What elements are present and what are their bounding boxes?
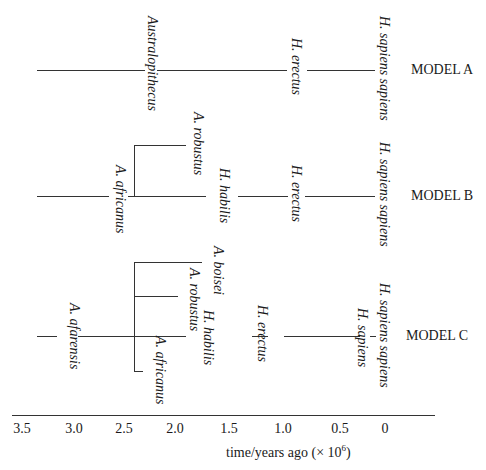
model-c-boisei-branch	[134, 262, 202, 263]
model-b-lineage-line	[37, 196, 109, 197]
species-label-h-erectus: H. erectus	[288, 38, 304, 95]
species-label-h-erectus: H. erectus	[254, 305, 270, 362]
model-b-branch-line	[134, 145, 135, 196]
tick-label: 3.5	[13, 421, 31, 437]
model-c-branch-line	[134, 262, 135, 371]
model-c-lineage-line	[284, 336, 360, 337]
species-label-h-sapiens-sapiens: H. sapiens sapiens	[376, 16, 392, 121]
species-label-h-sapiens: H. sapiens	[354, 308, 370, 367]
time-axis-line	[12, 415, 435, 416]
species-label-h-habilis: H. habilis	[216, 168, 232, 223]
model-b-lineage-line	[238, 196, 288, 197]
model-a-lineage-line	[307, 70, 375, 71]
species-label-a-boisei: A. boisei	[210, 246, 226, 295]
model-c-lineage-line	[37, 336, 57, 337]
model-b-label: MODEL B	[411, 188, 473, 204]
tick-label: 0	[382, 421, 389, 437]
tick-label: 1.0	[274, 421, 292, 437]
model-a-lineage-line	[37, 70, 145, 71]
model-c-robustus-branch	[134, 296, 178, 297]
model-c-africanus-branch	[134, 371, 143, 372]
species-label-a-robustus: A. robustus	[190, 112, 206, 175]
species-label-h-sapiens-sapiens: H. sapiens sapiens	[376, 142, 392, 247]
model-a-lineage-line	[157, 70, 287, 71]
model-a-label: MODEL A	[411, 62, 473, 78]
species-label-a-africanus: A. africanus	[112, 165, 128, 233]
species-label-h-erectus: H. erectus	[288, 165, 304, 222]
model-b-lineage-line	[128, 196, 206, 197]
species-label-australopithecus: Australopithecus	[144, 16, 160, 111]
tick-label: 2.5	[115, 421, 133, 437]
model-c-label: MODEL C	[406, 328, 468, 344]
axis-title-text: time/years ago (× 10	[226, 445, 342, 460]
model-c-lineage-line	[78, 336, 186, 337]
species-label-a-africanus: A. africanus	[152, 336, 168, 404]
tick-label: 0.5	[331, 421, 349, 437]
axis-title: time/years ago (× 106)	[226, 443, 351, 461]
tick-label: 2.0	[166, 421, 184, 437]
axis-title-close: )	[346, 445, 351, 460]
model-b-robustus-branch	[134, 145, 186, 146]
species-label-h-sapiens-sapiens: H. sapiens sapiens	[376, 283, 392, 388]
model-b-lineage-line	[305, 196, 375, 197]
tick-label: 3.0	[65, 421, 83, 437]
tick-label: 1.5	[220, 421, 238, 437]
species-label-a-afarensis: A. afarensis	[66, 303, 82, 369]
species-label-h-habilis: H. habilis	[200, 310, 216, 365]
